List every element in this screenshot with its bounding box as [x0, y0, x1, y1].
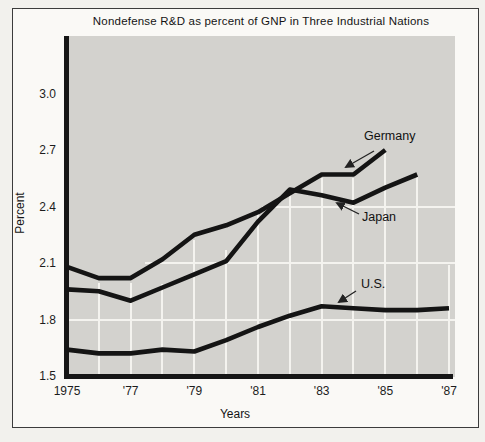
- x-tick-label: '83: [314, 384, 330, 398]
- y-axis: [64, 36, 69, 379]
- h-gridline: [262, 206, 455, 208]
- germany-label: Germany: [364, 129, 415, 143]
- x-tick-label: '79: [187, 384, 203, 398]
- chart-title: Nondefense R&D as percent of GNP in Thre…: [67, 15, 455, 27]
- x-axis-title: Years: [210, 407, 260, 421]
- v-gridline: [130, 283, 132, 374]
- japan-label: Japan: [362, 210, 396, 224]
- us-label: U.S.: [361, 277, 385, 291]
- v-gridline: [193, 240, 195, 374]
- x-axis: [64, 374, 453, 379]
- y-tick-label: 1.5: [16, 369, 56, 383]
- v-gridline: [161, 284, 163, 374]
- chart-page: Nondefense R&D as percent of GNP in Thre…: [0, 0, 485, 442]
- x-tick-label: 1975: [54, 384, 81, 398]
- v-gridline: [225, 250, 227, 374]
- v-gridline: [257, 213, 259, 374]
- x-tick-label: '77: [123, 384, 139, 398]
- h-gridline: [67, 319, 455, 321]
- x-tick-label: '85: [378, 384, 394, 398]
- y-tick-label: 1.8: [16, 313, 56, 327]
- y-tick-label: 2.1: [16, 256, 56, 270]
- y-tick-label: 3.0: [16, 87, 56, 101]
- v-gridline: [98, 283, 100, 374]
- y-tick-label: 2.7: [16, 143, 56, 157]
- x-tick-label: '81: [250, 384, 266, 398]
- h-gridline: [145, 262, 455, 264]
- v-gridline: [289, 190, 291, 374]
- x-tick-label: '87: [441, 384, 457, 398]
- y-axis-title: Percent: [13, 183, 27, 243]
